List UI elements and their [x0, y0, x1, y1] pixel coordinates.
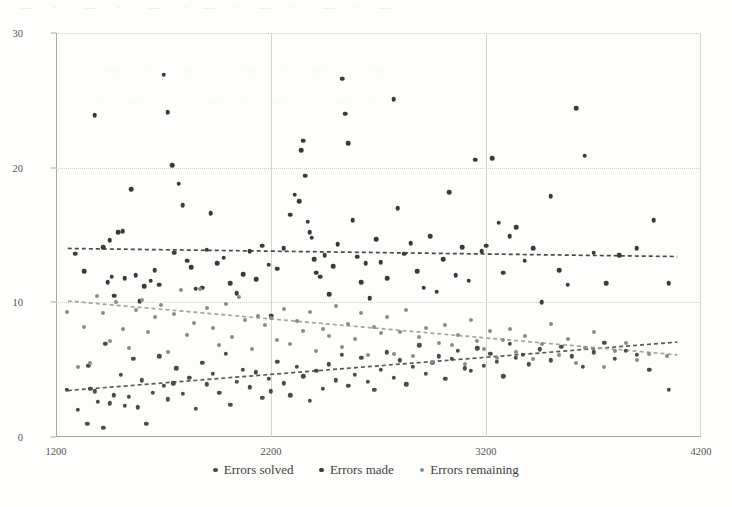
x-tick-label: 2200 [241, 446, 301, 457]
legend-item[interactable]: Errors solved [213, 462, 293, 478]
trendline-layer [56, 33, 701, 437]
y-tick-label: 20 [0, 162, 23, 173]
scatter-chart: 0102030 1200220032004200 Errors solvedEr… [0, 0, 732, 507]
y-tick-mark [51, 167, 56, 168]
legend-marker-icon [213, 468, 218, 473]
trendline [68, 301, 678, 355]
y-tick-mark [51, 437, 56, 438]
chart-legend: Errors solvedErrors madeErrors remaining [0, 462, 732, 478]
y-tick-mark [51, 302, 56, 303]
y-tick-label: 30 [0, 28, 23, 39]
y-tick-label: 0 [0, 432, 23, 443]
y-tick-label: 10 [0, 297, 23, 308]
scan-page: — · — · — · — · — · — · — · — · — · — · … [0, 0, 732, 507]
legend-item[interactable]: Errors made [319, 462, 393, 478]
x-tick-label: 1200 [26, 446, 86, 457]
legend-label: Errors solved [224, 462, 294, 478]
trendline [68, 248, 678, 256]
x-tick-label: 4200 [671, 446, 731, 457]
trendline [68, 342, 678, 390]
legend-label: Errors remaining [430, 462, 518, 478]
plot-area [56, 33, 701, 437]
legend-label: Errors made [330, 462, 394, 478]
legend-marker-icon [420, 468, 425, 473]
y-tick-mark [51, 33, 56, 34]
x-tick-label: 3200 [456, 446, 516, 457]
legend-item[interactable]: Errors remaining [420, 462, 519, 478]
legend-marker-icon [319, 468, 324, 473]
